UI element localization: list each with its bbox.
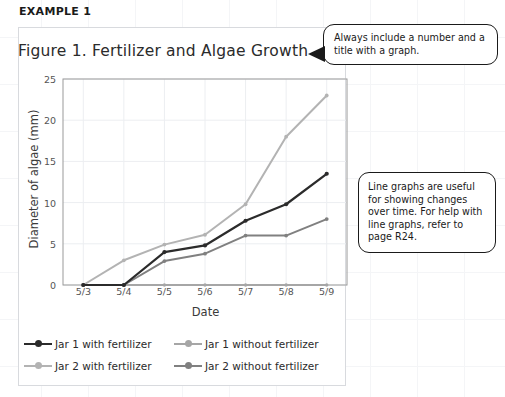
legend-line-icon bbox=[174, 339, 202, 349]
legend-line-icon bbox=[24, 339, 52, 349]
x-tick-label: 5/8 bbox=[278, 286, 293, 297]
info-callout: Line graphs are useful for showing chang… bbox=[358, 172, 496, 253]
legend-row: Jar 1 with fertilizer Jar 1 without fert… bbox=[24, 333, 324, 355]
legend-item-jar2-without: Jar 2 without fertilizer bbox=[174, 360, 319, 372]
legend-item-jar2-with: Jar 2 with fertilizer bbox=[24, 360, 174, 372]
legend-row: Jar 2 with fertilizer Jar 2 without fert… bbox=[24, 355, 324, 377]
y-axis-title: Diameter of algae (mm) bbox=[27, 79, 41, 279]
legend-item-jar1-with: Jar 1 with fertilizer bbox=[24, 338, 174, 350]
legend-label: Jar 1 without fertilizer bbox=[205, 338, 319, 350]
chart-legend: Jar 1 with fertilizer Jar 1 without fert… bbox=[24, 333, 324, 379]
callout-arrow-icon bbox=[307, 44, 325, 64]
legend-line-icon bbox=[24, 361, 52, 371]
x-tick-label: 5/9 bbox=[319, 286, 334, 297]
x-tick-label: 5/5 bbox=[157, 286, 172, 297]
legend-item-jar1-without: Jar 1 without fertilizer bbox=[174, 338, 319, 350]
x-tick-label: 5/4 bbox=[116, 286, 131, 297]
title-callout: Always include a number and a title with… bbox=[323, 24, 498, 65]
x-tick-label: 5/7 bbox=[238, 286, 253, 297]
chart-title: Figure 1. Fertilizer and Algae Growth bbox=[18, 42, 318, 60]
x-axis-title: Date bbox=[63, 305, 348, 319]
y-tick-label: 0 bbox=[32, 280, 56, 291]
x-tick-label: 5/6 bbox=[197, 286, 212, 297]
title-callout-text: Always include a number and a title with… bbox=[334, 32, 488, 57]
legend-line-icon bbox=[174, 361, 202, 371]
legend-label: Jar 2 with fertilizer bbox=[55, 360, 151, 372]
x-tick-label: 5/3 bbox=[76, 286, 91, 297]
legend-label: Jar 1 with fertilizer bbox=[55, 338, 151, 350]
info-callout-text: Line graphs are useful for showing chang… bbox=[368, 181, 486, 244]
legend-label: Jar 2 without fertilizer bbox=[205, 360, 319, 372]
x-axis-tick-labels: 5/35/45/55/65/75/85/9 bbox=[63, 286, 348, 300]
